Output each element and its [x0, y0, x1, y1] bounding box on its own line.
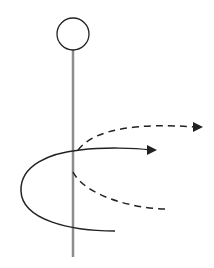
background	[0, 0, 214, 268]
rotation-diagram	[0, 0, 214, 268]
head-circle	[57, 18, 89, 50]
